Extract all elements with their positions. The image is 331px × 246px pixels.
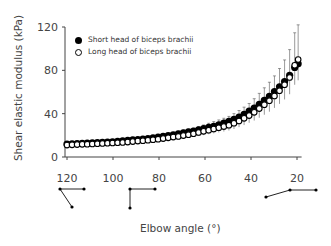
data-points xyxy=(63,57,301,148)
legend: Short head of biceps brachii Long head o… xyxy=(75,34,193,58)
arm-posture-icons xyxy=(58,187,317,209)
legend-label: Long head of biceps brachii xyxy=(88,46,191,58)
x-tick-label: 80 xyxy=(152,172,166,185)
y-tick-label: 120 xyxy=(37,21,58,34)
legend-label: Short head of biceps brachii xyxy=(88,34,193,46)
y-tick-label: 0 xyxy=(51,151,58,164)
y-axis-label: Shear elastic modulus (kPa) xyxy=(12,8,24,168)
legend-item-short-head: Short head of biceps brachii xyxy=(75,34,193,46)
y-tick-label: 40 xyxy=(44,108,58,121)
y-tick-label: 80 xyxy=(44,64,58,77)
x-tick-label: 120 xyxy=(57,172,78,185)
open-circle-icon xyxy=(75,49,82,56)
legend-item-long-head: Long head of biceps brachii xyxy=(75,46,193,58)
x-tick-label: 40 xyxy=(244,172,258,185)
x-tick-label: 20 xyxy=(290,172,304,185)
x-tick-label: 60 xyxy=(198,172,212,185)
x-tick-label: 100 xyxy=(103,172,124,185)
filled-circle-icon xyxy=(75,37,82,44)
x-axis-label: Elbow angle (°) xyxy=(140,222,220,234)
